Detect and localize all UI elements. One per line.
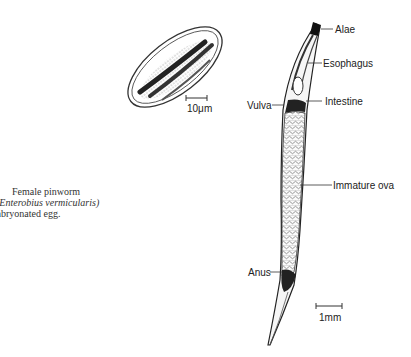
label-vulva: Vulva [247, 100, 272, 111]
egg-drawing [115, 12, 235, 122]
worm-scale-label: 1mm [319, 312, 341, 323]
egg-scale-label: 10μm [187, 103, 212, 114]
label-anus: Anus [248, 267, 271, 278]
egg-scale-bar [186, 95, 207, 101]
label-alae: Alae [335, 24, 355, 35]
worm-drawing [268, 22, 321, 345]
label-immature-ova: Immature ova [333, 180, 394, 191]
worm-scale-bar [316, 303, 342, 309]
illustration [0, 0, 411, 357]
label-intestine: Intestine [325, 96, 363, 107]
label-esophagus: Esophagus [323, 58, 373, 69]
